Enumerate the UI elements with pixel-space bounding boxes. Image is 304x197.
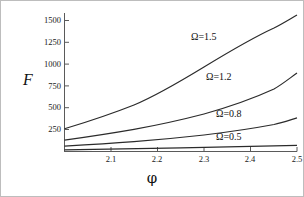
series-label-omega-0-8: Ω=0.8 <box>216 108 242 119</box>
y-tick-label-1000: 1000 <box>33 59 61 69</box>
x-tick-label-2-2: 2.2 <box>143 154 171 164</box>
curve-omega-0-8 <box>65 118 298 146</box>
curve-omega-1-2 <box>65 73 298 140</box>
y-tick-label-1250: 1250 <box>33 37 61 47</box>
y-axis-label: F <box>23 71 33 89</box>
chart-figure: F φ 1500 1250 1000 750 500 250 2.1 2.2 2… <box>0 0 304 197</box>
curve-omega-1-5 <box>65 15 298 129</box>
y-tick-label-500: 500 <box>33 102 61 112</box>
plot-canvas <box>1 1 304 197</box>
series-label-omega-1-2: Ω=1.2 <box>206 71 232 82</box>
x-tick-label-2-1: 2.1 <box>97 154 125 164</box>
x-tick-label-2-5: 2.5 <box>283 154 304 164</box>
y-tick-label-250: 250 <box>33 124 61 134</box>
y-tick-label-750: 750 <box>33 81 61 91</box>
series-label-omega-0-5: Ω=0.5 <box>216 131 242 142</box>
y-tick-marks <box>65 21 70 130</box>
series-label-omega-1-5: Ω=1.5 <box>191 31 217 42</box>
x-tick-label-2-3: 2.3 <box>190 154 218 164</box>
curve-omega-0-5 <box>65 145 298 150</box>
x-tick-label-2-4: 2.4 <box>236 154 264 164</box>
x-axis-label: φ <box>1 169 303 187</box>
y-tick-label-1500: 1500 <box>33 15 61 25</box>
